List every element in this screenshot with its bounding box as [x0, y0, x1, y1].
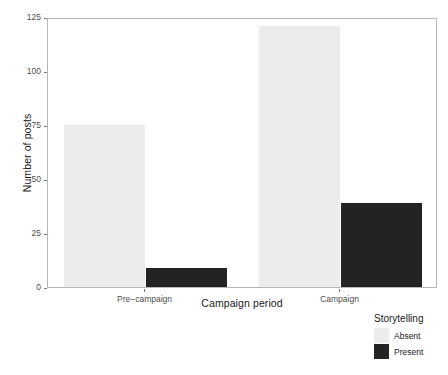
y-tick-mark — [44, 234, 47, 235]
y-tick-label: 125 — [27, 12, 41, 22]
bar — [259, 26, 341, 287]
y-axis-title: Number of posts — [16, 18, 38, 288]
legend-item: Present — [374, 344, 448, 359]
bars-layer — [48, 19, 436, 287]
bar — [146, 268, 228, 287]
bar — [341, 203, 423, 287]
x-axis-title: Campaign period — [47, 297, 437, 309]
legend-label: Present — [394, 347, 423, 357]
x-tick-mark — [144, 289, 145, 292]
legend-item: Absent — [374, 328, 448, 343]
legend: Storytelling AbsentPresent — [374, 313, 448, 360]
y-tick-mark — [44, 18, 47, 19]
legend-label: Absent — [394, 331, 420, 341]
y-tick-label: 75 — [32, 120, 41, 130]
x-tick-mark — [339, 289, 340, 292]
y-tick-label: 25 — [32, 228, 41, 238]
y-tick-label: 0 — [36, 282, 41, 292]
legend-title: Storytelling — [374, 313, 448, 324]
y-tick-mark — [44, 72, 47, 73]
legend-swatch — [374, 344, 389, 359]
legend-key — [374, 344, 389, 359]
legend-key — [374, 328, 389, 343]
y-tick-label: 50 — [32, 174, 41, 184]
legend-swatch — [374, 328, 389, 343]
y-tick-mark — [44, 126, 47, 127]
y-tick-mark — [44, 180, 47, 181]
bar-chart: Number of posts 0255075100125 Pre−campai… — [0, 0, 448, 375]
y-tick-mark — [44, 288, 47, 289]
bar — [64, 125, 146, 287]
legend-items: AbsentPresent — [374, 328, 448, 359]
plot-panel — [47, 18, 437, 288]
y-tick-label: 100 — [27, 66, 41, 76]
